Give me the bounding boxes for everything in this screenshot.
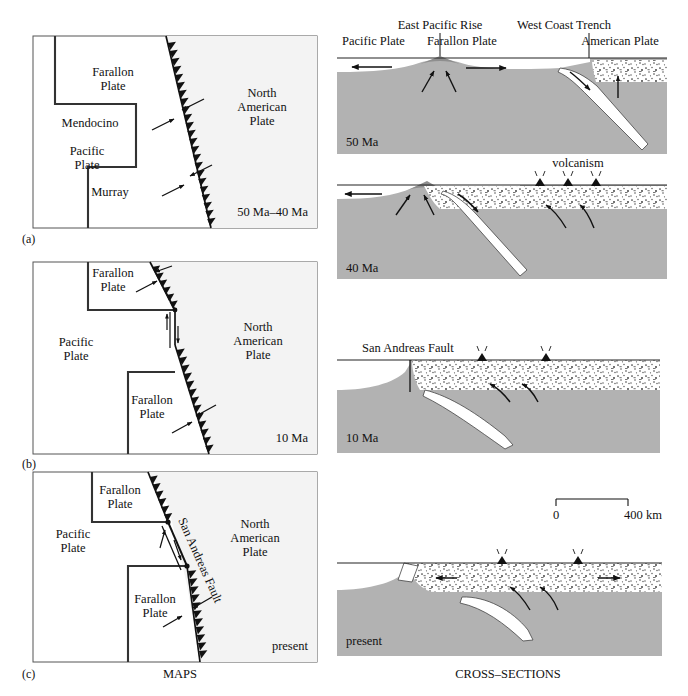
xs-header-west-coast-trench: West Coast Trench <box>517 18 612 32</box>
map-panel-b[interactable]: Farallon Plate Pacific Plate Farallon Pl… <box>22 262 317 471</box>
map-panel-c[interactable]: San Andreas Fault Fara <box>22 472 317 681</box>
map-a-na-label-3: Plate <box>250 114 275 128</box>
map-c-pacific-label-1: Pacific <box>56 527 91 541</box>
map-c-pacific-label-2: Plate <box>61 541 86 555</box>
maps-column-caption: MAPS <box>163 667 197 681</box>
scale-bar-label-left: 0 <box>553 508 559 522</box>
map-b-pacific-label-2: Plate <box>64 349 89 363</box>
map-b-farallon-north-label-1: Farallon <box>92 266 134 280</box>
map-c-panel-label: (c) <box>22 667 35 681</box>
map-a-panel-label: (a) <box>22 232 35 246</box>
map-b-na-label-3: Plate <box>246 348 271 362</box>
map-b-na-label-2: American <box>233 334 283 348</box>
scale-bar: 0 400 km <box>553 499 662 522</box>
map-a-pacific-label-2: Plate <box>75 158 100 172</box>
map-b-time-label: 10 Ma <box>276 431 309 445</box>
xs-header-pacific-plate: Pacific Plate <box>342 34 405 48</box>
xs10-san-andreas-label: San Andreas Fault <box>362 341 454 355</box>
cross-section-present[interactable]: present <box>337 549 662 656</box>
cross-section-header: Pacific Plate East Pacific Rise Farallon… <box>342 18 659 60</box>
map-panel-a[interactable]: Farallon Plate Mendocino Pacific Plate M… <box>22 36 317 246</box>
scale-bar-label-right: 400 km <box>624 508 662 522</box>
map-c-time-label: present <box>272 639 309 653</box>
map-a-na-label-2: American <box>237 100 287 114</box>
cross-section-50ma[interactable]: 50 Ma <box>337 56 667 154</box>
map-c-farallon-south-label-1: Farallon <box>134 592 176 606</box>
xs10-time-label: 10 Ma <box>346 431 379 445</box>
map-a-pacific-label-1: Pacific <box>70 144 105 158</box>
map-c-na-label-1: North <box>240 517 270 531</box>
map-c-na-label-3: Plate <box>243 545 268 559</box>
map-a-farallon-label-1: Farallon <box>92 65 134 79</box>
map-c-na-label-2: American <box>230 531 280 545</box>
xs40-time-label: 40 Ma <box>346 261 379 275</box>
map-b-pacific-label-1: Pacific <box>59 335 94 349</box>
xs50-time-label: 50 Ma <box>346 135 379 149</box>
map-a-time-label: 50 Ma–40 Ma <box>237 205 308 219</box>
map-b-na-label-1: North <box>243 320 273 334</box>
xs10-volcanoes <box>477 346 551 361</box>
map-c-farallon-south-label-2: Plate <box>143 606 168 620</box>
map-b-farallon-south-label-1: Farallon <box>131 393 173 407</box>
map-a-mendocino-label: Mendocino <box>62 116 119 130</box>
cross-sections-column-caption: CROSS–SECTIONS <box>455 667 561 681</box>
map-b-panel-label: (b) <box>22 457 36 471</box>
map-b-farallon-south-label-2: Plate <box>140 407 165 421</box>
xspresent-volcanoes <box>497 549 583 564</box>
map-b-farallon-north-label-2: Plate <box>101 280 126 294</box>
xs-header-farallon-plate: Farallon Plate <box>427 34 497 48</box>
figure-svg: Farallon Plate Mendocino Pacific Plate M… <box>0 0 688 696</box>
xs50-continental-crust <box>592 60 667 82</box>
map-a-murray-label: Murray <box>91 185 129 199</box>
xs-header-american-plate: American Plate <box>581 34 659 48</box>
cross-section-10ma[interactable]: San Andreas Fault 10 Ma <box>337 341 660 453</box>
xs40-volcanoes <box>535 171 601 186</box>
xspresent-time-label: present <box>346 634 383 648</box>
map-a-farallon-label-2: Plate <box>101 79 126 93</box>
map-c-farallon-north-label-1: Farallon <box>99 483 141 497</box>
xs10-continental-crust <box>412 360 660 390</box>
xs-header-east-pacific-rise: East Pacific Rise <box>398 18 483 32</box>
cross-section-40ma[interactable]: volcanism 40 Ma <box>337 156 667 279</box>
map-a-na-label-1: North <box>247 86 277 100</box>
map-c-farallon-north-label-2: Plate <box>108 497 133 511</box>
xs40-volcanism-label: volcanism <box>552 156 604 170</box>
figure-root: Farallon Plate Mendocino Pacific Plate M… <box>0 0 688 696</box>
